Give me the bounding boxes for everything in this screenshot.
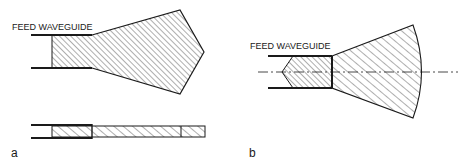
panel-label-a: a [11,146,18,160]
sectoral-horn-b [332,25,422,118]
panel-b: FEED WAVEGUIDE b [249,25,458,160]
panel-a: FEED WAVEGUIDE a [11,10,205,160]
diagram-canvas: FEED WAVEGUIDE a FEED WAVEGUIDE b [0,0,467,166]
feed-waveguide-label-a: FEED WAVEGUIDE [12,22,93,32]
panel-label-b: b [249,146,256,160]
side-view-slab-a [31,124,205,139]
feed-waveguide-label-b: FEED WAVEGUIDE [250,41,331,51]
